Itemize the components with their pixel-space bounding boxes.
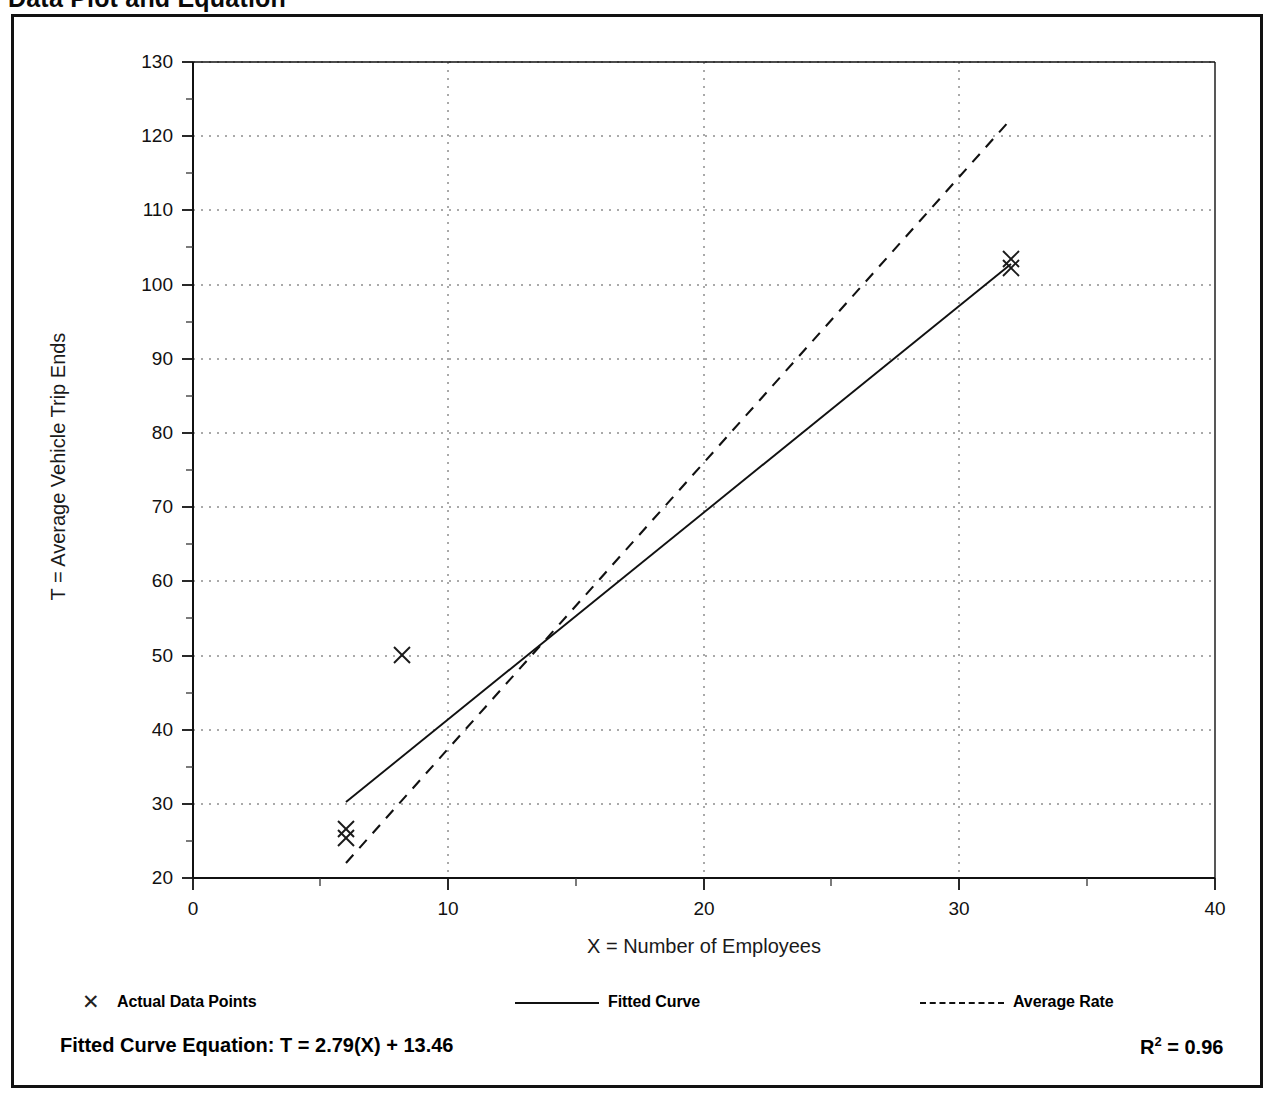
- legend-item-average-rate: Average Rate: [920, 985, 1113, 1019]
- data-point-marker: [338, 821, 354, 837]
- r-squared-exponent: 2: [1154, 1034, 1161, 1049]
- dashed-line-icon: [920, 993, 1004, 1011]
- y-tick-label-20: 20: [113, 867, 173, 889]
- series-fitted-curve: [346, 264, 1011, 802]
- legend-label-fitted-curve: Fitted Curve: [608, 993, 700, 1011]
- y-tick-label-110: 110: [113, 199, 173, 221]
- r-squared-symbol: R: [1140, 1036, 1154, 1058]
- y-tick-label-100: 100: [113, 274, 173, 296]
- x-tick-label-40: 40: [1185, 898, 1245, 920]
- x-tick-label-30: 30: [929, 898, 989, 920]
- x-axis-title: X = Number of Employees: [193, 935, 1215, 958]
- chart-figure: 130 120 110 100 90 80 70 60 50 40 30 20 …: [0, 0, 1278, 1099]
- y-tick-label-30: 30: [113, 793, 173, 815]
- r-squared-number: = 0.96: [1162, 1036, 1224, 1058]
- x-axis-major-ticks: [193, 878, 1215, 890]
- series-average-rate: [346, 119, 1011, 863]
- y-tick-label-50: 50: [113, 645, 173, 667]
- r-squared-value: R2 = 0.96: [1140, 1034, 1223, 1059]
- solid-line-icon: [515, 993, 599, 1011]
- legend-label-actual-data-points: Actual Data Points: [117, 993, 257, 1011]
- x-marker-icon: ✕: [74, 991, 108, 1013]
- y-axis-title: T = Average Vehicle Trip Ends: [47, 257, 70, 677]
- data-point-marker: [338, 830, 354, 846]
- x-tick-label-10: 10: [418, 898, 478, 920]
- y-tick-label-80: 80: [113, 422, 173, 444]
- legend-item-fitted-curve: Fitted Curve: [515, 985, 700, 1019]
- x-gridlines: [448, 62, 959, 878]
- y-tick-label-90: 90: [113, 348, 173, 370]
- y-gridlines: [193, 62, 1215, 804]
- data-point-marker: [394, 647, 410, 663]
- y-tick-label-130: 130: [113, 51, 173, 73]
- chart-legend: ✕ Actual Data Points Fitted Curve Averag…: [60, 985, 1240, 1019]
- y-tick-label-40: 40: [113, 719, 173, 741]
- x-tick-label-20: 20: [674, 898, 734, 920]
- legend-label-average-rate: Average Rate: [1013, 993, 1113, 1011]
- page-root: Data Plot and Equation: [0, 0, 1278, 1099]
- y-tick-label-60: 60: [113, 570, 173, 592]
- equation-row: Fitted Curve Equation: T = 2.79(X) + 13.…: [60, 1034, 1240, 1074]
- y-tick-label-70: 70: [113, 496, 173, 518]
- x-tick-label-0: 0: [163, 898, 223, 920]
- legend-item-actual-data-points: ✕ Actual Data Points: [74, 985, 257, 1019]
- y-tick-label-120: 120: [113, 125, 173, 147]
- fitted-curve-equation: Fitted Curve Equation: T = 2.79(X) + 13.…: [60, 1034, 453, 1057]
